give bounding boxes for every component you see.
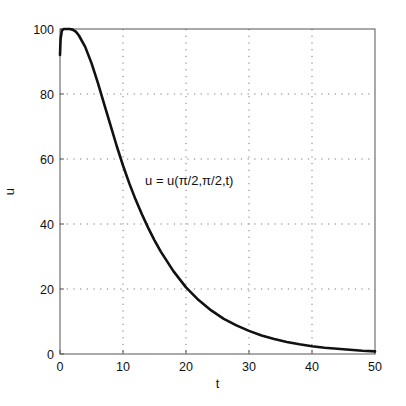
y-tick-label: 20 (40, 283, 54, 297)
y-tick-label: 80 (40, 88, 54, 102)
y-tick-label: 60 (40, 153, 54, 167)
y-tick-label: 0 (47, 348, 54, 362)
x-tick-label: 20 (179, 360, 193, 374)
x-tick-label: 50 (368, 360, 382, 374)
x-tick-label: 0 (57, 360, 64, 374)
x-tick-label: 10 (116, 360, 130, 374)
curve-annotation: u = u(π/2,π/2,t) (145, 173, 233, 188)
line-chart: 01020304050020406080100 u = u(π/2,π/2,t)… (0, 0, 406, 406)
y-tick-label: 100 (33, 23, 54, 37)
x-tick-label: 30 (242, 360, 256, 374)
x-axis-label: t (216, 376, 220, 391)
y-axis-label: u (2, 188, 17, 195)
x-tick-label: 40 (305, 360, 319, 374)
y-tick-label: 40 (40, 218, 54, 232)
